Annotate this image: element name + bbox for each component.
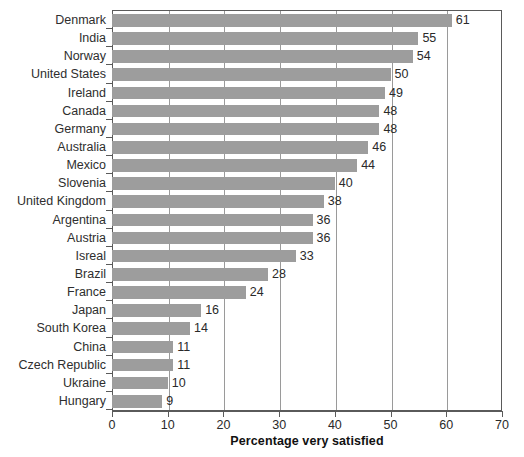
bar-row: 38: [112, 192, 502, 211]
y-axis-labels: DenmarkIndiaNorwayUnited StatesIrelandCa…: [0, 10, 106, 411]
bar: [112, 141, 368, 154]
bar-row: 50: [112, 65, 502, 84]
y-axis-label: Ukraine: [0, 374, 106, 393]
y-axis-label: Canada: [0, 102, 106, 121]
bar-value-label: 11: [173, 338, 190, 357]
y-axis-label: Brazil: [0, 265, 106, 284]
bar: [112, 232, 313, 245]
bar: [112, 87, 385, 100]
x-axis-tick: [112, 411, 113, 417]
bar: [112, 195, 324, 208]
bar-value-label: 55: [418, 29, 436, 48]
bar-row: 24: [112, 283, 502, 302]
y-axis-label: Czech Republic: [0, 356, 106, 375]
y-axis-label: Mexico: [0, 156, 106, 175]
bar-value-label: 36: [313, 229, 331, 248]
x-axis-tick: [279, 411, 280, 417]
x-axis-line: [112, 411, 502, 412]
x-axis-tick: [223, 411, 224, 417]
y-axis-label: Japan: [0, 301, 106, 320]
bar: [112, 250, 296, 263]
bar-value-label: 24: [246, 283, 264, 302]
bar: [112, 214, 313, 227]
x-axis-tick: [335, 411, 336, 417]
x-axis-tick: [446, 411, 447, 417]
bar: [112, 177, 335, 190]
y-axis-label: France: [0, 283, 106, 302]
bar-value-label: 46: [368, 138, 386, 157]
bar-value-label: 48: [379, 102, 397, 121]
x-axis-tick-label: 30: [259, 418, 299, 432]
bar-chart: DenmarkIndiaNorwayUnited StatesIrelandCa…: [0, 0, 524, 457]
y-axis-label: Germany: [0, 120, 106, 139]
x-axis-tick-label: 40: [315, 418, 355, 432]
bar-row: 55: [112, 29, 502, 48]
y-axis-label: Argentina: [0, 211, 106, 230]
y-axis-label: China: [0, 338, 106, 357]
bar: [112, 105, 379, 118]
bar-row: 33: [112, 247, 502, 266]
bar-row: 11: [112, 338, 502, 357]
bar-row: 16: [112, 301, 502, 320]
bar: [112, 377, 168, 390]
x-axis-tick-label: 10: [148, 418, 188, 432]
bar-value-label: 14: [190, 319, 208, 338]
bar-row: 36: [112, 229, 502, 248]
bar: [112, 159, 357, 172]
bar-value-label: 16: [201, 301, 219, 320]
bar-value-label: 33: [296, 247, 314, 266]
bar: [112, 341, 173, 354]
bar: [112, 268, 268, 281]
bar-row: 10: [112, 374, 502, 393]
y-axis-label: Denmark: [0, 11, 106, 30]
bar: [112, 68, 391, 81]
x-axis-title: Percentage very satisfied: [112, 434, 502, 448]
bar-value-label: 9: [162, 392, 173, 411]
y-axis-label: Australia: [0, 138, 106, 157]
y-axis-label: Ireland: [0, 84, 106, 103]
bar-row: 36: [112, 211, 502, 230]
bar-value-label: 10: [168, 374, 186, 393]
bar: [112, 14, 452, 27]
y-axis-label: United States: [0, 65, 106, 84]
x-axis-tick-label: 50: [371, 418, 411, 432]
x-axis-tick-label: 60: [426, 418, 466, 432]
bar-row: 28: [112, 265, 502, 284]
bar: [112, 304, 201, 317]
y-axis-label: South Korea: [0, 319, 106, 338]
bar-value-label: 48: [379, 120, 397, 139]
bar-row: 9: [112, 392, 502, 411]
y-axis-label: Austria: [0, 229, 106, 248]
y-axis-label: Slovenia: [0, 174, 106, 193]
bar-row: 44: [112, 156, 502, 175]
bar-value-label: 61: [452, 11, 470, 30]
bar: [112, 359, 173, 372]
x-axis-tick: [391, 411, 392, 417]
x-axis-tick-label: 70: [482, 418, 522, 432]
x-axis-tick: [168, 411, 169, 417]
bar-row: 14: [112, 319, 502, 338]
bar-row: 46: [112, 138, 502, 157]
x-axis-tick-label: 20: [203, 418, 243, 432]
bar-row: 54: [112, 47, 502, 66]
bar: [112, 322, 190, 335]
bar: [112, 286, 246, 299]
y-axis-label: Hungary: [0, 392, 106, 411]
bar-value-label: 50: [391, 65, 409, 84]
bar-value-label: 54: [413, 47, 431, 66]
bar-row: 48: [112, 120, 502, 139]
x-axis-tick: [502, 411, 503, 417]
bar-row: 40: [112, 174, 502, 193]
bar: [112, 123, 379, 136]
bar-value-label: 40: [335, 174, 353, 193]
bar-row: 11: [112, 356, 502, 375]
bar-series: 6155545049484846444038363633282416141111…: [112, 10, 502, 411]
y-axis-label: Norway: [0, 47, 106, 66]
bar: [112, 32, 418, 45]
bar-value-label: 11: [173, 356, 190, 375]
y-axis-label: United Kingdom: [0, 192, 106, 211]
bar: [112, 50, 413, 63]
y-axis-label: Isreal: [0, 247, 106, 266]
bar-value-label: 28: [268, 265, 286, 284]
bar-value-label: 44: [357, 156, 375, 175]
